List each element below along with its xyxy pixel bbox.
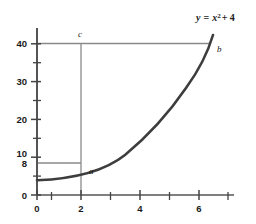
equation-exponent: 2	[217, 12, 221, 20]
x-tick-label-2: 2	[78, 203, 83, 214]
y-tick-label-0: 0	[22, 190, 27, 201]
equation-label: y=x2+ 4	[195, 12, 235, 24]
x-tick-label-6: 6	[196, 203, 201, 214]
chart-screenshot: 0 8 10 20 30 40 0 2 4 6 a b c y=x2+ 4	[0, 0, 256, 224]
point-label-a: a	[89, 166, 94, 176]
equation-equals: =	[203, 12, 209, 23]
equation-y: y	[195, 12, 201, 23]
point-label-c: c	[78, 29, 82, 39]
y-tick-label-30: 30	[16, 76, 27, 87]
y-tick-label-8: 8	[22, 158, 27, 169]
curve-parabola	[37, 35, 213, 180]
y-tick-label-40: 40	[16, 38, 27, 49]
plot-area: 0 8 10 20 30 40 0 2 4 6 a b c y=x2+ 4	[0, 0, 256, 224]
x-tick-label-4: 4	[137, 203, 143, 214]
equation-tail: + 4	[222, 12, 235, 23]
y-tick-label-20: 20	[16, 114, 27, 125]
point-label-b: b	[217, 44, 222, 54]
y-tick-label-10: 10	[16, 148, 27, 159]
x-tick-label-0: 0	[34, 203, 39, 214]
